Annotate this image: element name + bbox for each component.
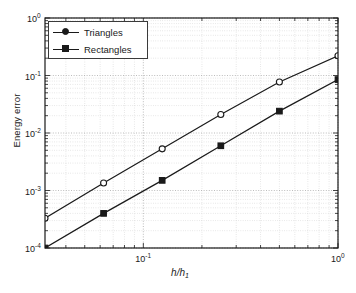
legend-sample-triangles xyxy=(53,26,79,38)
tick-mantissa: 10 xyxy=(135,254,145,264)
legend-sample-rectangles xyxy=(53,43,79,55)
data-point-marker xyxy=(276,79,282,85)
tick-exponent: -2 xyxy=(35,127,41,134)
tick-exponent: -4 xyxy=(35,242,41,249)
tick-exponent: 0 xyxy=(37,12,41,19)
tick-exponent: -1 xyxy=(35,70,41,77)
data-point-marker xyxy=(101,180,107,186)
x-tick-label-0: 10-1 xyxy=(135,252,151,264)
tick-mantissa: 10 xyxy=(27,14,37,24)
data-point-marker xyxy=(277,108,283,114)
data-point-marker xyxy=(159,146,165,152)
tick-exponent: -1 xyxy=(145,252,151,259)
y-tick-label-4: 10-4 xyxy=(25,242,41,254)
figure-energy-error-convergence: Energy error h/h1 10010-110-210-310-410-… xyxy=(0,0,356,293)
tick-mantissa: 10 xyxy=(25,72,35,82)
data-point-marker xyxy=(218,143,224,149)
legend-label-rectangles: Rectangles xyxy=(84,44,132,55)
tick-mantissa: 10 xyxy=(25,187,35,197)
tick-mantissa: 10 xyxy=(25,244,35,254)
tick-mantissa: 10 xyxy=(331,254,341,264)
legend-entry-rectangles: Rectangles xyxy=(53,41,132,57)
legend-label-triangles: Triangles xyxy=(84,27,123,38)
data-point-marker xyxy=(218,111,224,117)
y-tick-label-0: 100 xyxy=(27,12,41,24)
y-tick-label-2: 10-2 xyxy=(25,127,41,139)
legend-entry-triangles: Triangles xyxy=(53,24,123,40)
tick-exponent: 0 xyxy=(341,252,345,259)
legend: Triangles Rectangles xyxy=(48,21,148,59)
data-point-marker xyxy=(101,211,107,217)
square-marker-icon xyxy=(62,45,69,52)
tick-mantissa: 10 xyxy=(25,129,35,139)
x-tick-label-1: 100 xyxy=(331,252,345,264)
data-point-marker xyxy=(159,178,165,184)
tick-exponent: -3 xyxy=(35,185,41,192)
y-tick-label-1: 10-1 xyxy=(25,70,41,82)
y-tick-label-3: 10-3 xyxy=(25,185,41,197)
circle-marker-icon xyxy=(62,28,69,35)
